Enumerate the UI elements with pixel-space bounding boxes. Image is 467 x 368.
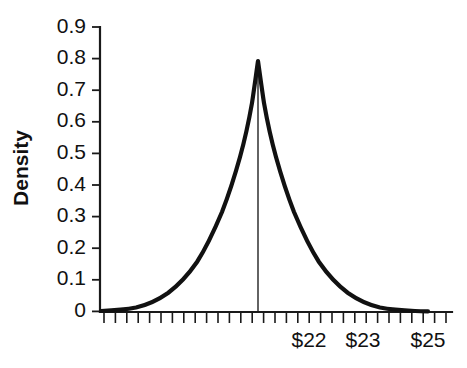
x-tick-label-23: $23 (345, 328, 380, 351)
y-axis-title: Density (9, 130, 32, 206)
y-tick-label-0.4: 0.4 (57, 172, 87, 195)
y-tick-label-0.1: 0.1 (57, 266, 86, 289)
y-tick-label-0.9: 0.9 (57, 14, 86, 37)
x-tick-label-22: $22 (291, 328, 326, 351)
x-tick-label-25: $25 (410, 328, 445, 351)
density-chart: Density 0.9 0.8 0.7 0.6 0.5 0.4 0.3 (0, 0, 467, 368)
x-axis-tick-labels: $22 $23 $25 (291, 328, 445, 351)
y-tick-label-0.2: 0.2 (57, 235, 86, 258)
y-tick-label-0.6: 0.6 (57, 108, 86, 131)
y-tick-label-0.8: 0.8 (57, 45, 86, 68)
y-tick-label-0.5: 0.5 (57, 140, 86, 163)
y-tick-label-0.7: 0.7 (57, 77, 86, 100)
chart-svg: Density 0.9 0.8 0.7 0.6 0.5 0.4 0.3 (0, 0, 467, 368)
y-tick-label-0.3: 0.3 (57, 203, 86, 226)
y-tick-label-0: 0 (74, 298, 86, 321)
